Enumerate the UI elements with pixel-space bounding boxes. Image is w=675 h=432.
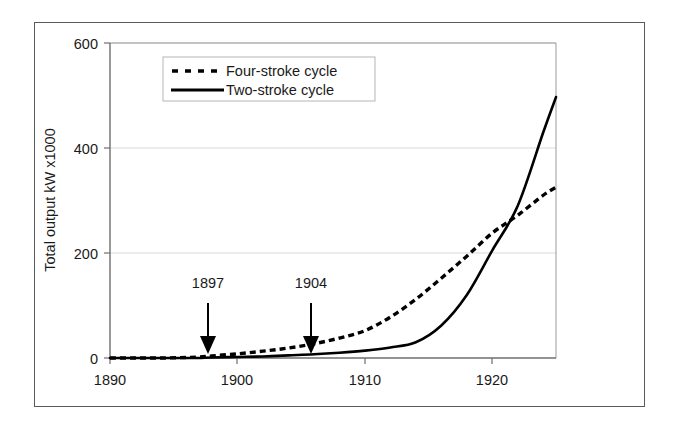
y-axis-title: Total output kW x1000 — [42, 128, 58, 271]
chart-legend: Four-stroke cycle Two-stroke cycle — [163, 57, 375, 101]
line-chart: 600 400 200 0 1890 1900 1910 1920 Total … — [0, 0, 675, 432]
x-tick-label-1900: 1900 — [221, 372, 253, 388]
y-tick-label-200: 200 — [74, 246, 98, 262]
chart-figure: 600 400 200 0 1890 1900 1910 1920 Total … — [0, 0, 675, 432]
annotation-1897-label: 1897 — [192, 275, 224, 291]
legend-label-four-stroke: Four-stroke cycle — [226, 63, 337, 79]
y-tick-label-400: 400 — [74, 141, 98, 157]
y-axis-ticks — [104, 43, 110, 358]
y-axis-tick-labels: 600 400 200 0 — [74, 36, 98, 367]
x-axis-tick-labels: 1890 1900 1910 1920 — [94, 372, 508, 388]
x-tick-label-1890: 1890 — [94, 372, 126, 388]
legend-label-two-stroke: Two-stroke cycle — [226, 82, 334, 98]
x-tick-label-1910: 1910 — [349, 372, 381, 388]
x-tick-label-1920: 1920 — [476, 372, 508, 388]
y-tick-label-600: 600 — [74, 36, 98, 52]
y-tick-label-0: 0 — [90, 351, 98, 367]
annotation-1904-label: 1904 — [295, 275, 327, 291]
